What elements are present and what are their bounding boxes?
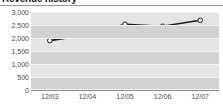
x-axis: 12/0312/0412/0512/0612/07 xyxy=(31,93,219,103)
y-tick-label: 3,000 xyxy=(1,9,29,16)
title-divider xyxy=(0,5,223,6)
revenue-history-chart-widget: Revenue history 05001,0001,5002,0002,500… xyxy=(0,0,223,107)
y-tick-label: 1,500 xyxy=(1,48,29,55)
gridline xyxy=(31,64,219,65)
x-tick-label: 12/05 xyxy=(116,93,134,101)
plot-area xyxy=(31,12,219,90)
grid-band xyxy=(31,25,219,38)
gridline xyxy=(31,12,219,13)
gridline xyxy=(31,51,219,52)
gridline xyxy=(31,25,219,26)
gridline xyxy=(31,77,219,78)
y-axis: 05001,0001,5002,0002,5003,000 xyxy=(0,12,29,90)
x-tick-label: 12/06 xyxy=(154,93,172,101)
y-tick-label: 0 xyxy=(1,87,29,94)
data-point-marker[interactable] xyxy=(198,18,203,23)
x-tick-label: 12/03 xyxy=(41,93,59,101)
y-tick-label: 2,500 xyxy=(1,22,29,29)
grid-band xyxy=(31,51,219,64)
y-tick-label: 500 xyxy=(1,74,29,81)
gridline xyxy=(31,38,219,39)
x-axis-line xyxy=(31,90,219,91)
x-tick-label: 12/04 xyxy=(79,93,97,101)
x-tick-label: 12/07 xyxy=(191,93,209,101)
y-tick-label: 1,000 xyxy=(1,61,29,68)
y-tick-label: 2,000 xyxy=(1,35,29,42)
